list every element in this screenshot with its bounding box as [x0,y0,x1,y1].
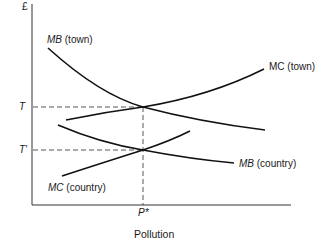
mc-country-label: MC (country) [48,183,106,193]
mb-country-label: MB (country) [239,159,296,169]
mb-town-suffix: (town) [65,34,93,45]
y-axis-label: £ [22,2,28,12]
t-prime-tick-label: T' [19,145,27,155]
mc-country-abbr: MC [48,182,64,193]
p-star-tick-label: P* [138,208,149,218]
mc-country-curve [62,131,190,176]
mc-country-suffix: (country) [66,182,105,193]
mb-country-curve [58,125,234,163]
mb-town-abbr: MB [47,34,62,45]
x-axis-label: Pollution [134,229,174,240]
mb-country-suffix: (country) [257,158,296,169]
mb-country-abbr: MB [239,158,254,169]
mc-town-label: MC (town) [269,62,315,72]
mb-town-label: MB (town) [47,35,93,45]
t-tick-label: T [19,102,25,112]
